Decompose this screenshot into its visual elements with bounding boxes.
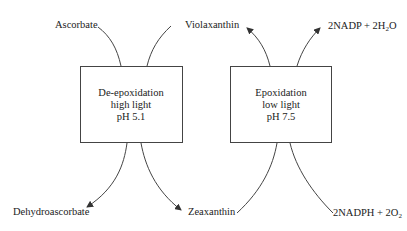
violaxanthin-input-line bbox=[147, 26, 171, 66]
nadph-oxygen-input-line bbox=[290, 143, 333, 213]
label-nadph-oxygen: 2NADPH + 2O2 bbox=[333, 207, 402, 220]
label-dehydroascorbate: Dehydroascorbate bbox=[13, 206, 90, 217]
label-zeaxanthin: Zeaxanthin bbox=[188, 206, 236, 217]
dehydroascorbate-arrow bbox=[87, 143, 127, 207]
nadp-water-arrow bbox=[297, 28, 320, 66]
xanthophyll-cycle-diagram: De-epoxidation high light pH 5.1 Epoxida… bbox=[0, 0, 407, 231]
label-nadp-water: 2NADP + 2H2O bbox=[328, 20, 397, 33]
zeaxanthin-input-line bbox=[237, 143, 277, 213]
box1-line1: De-epoxidation bbox=[98, 87, 164, 98]
box1-line2: high light bbox=[111, 99, 152, 110]
ascorbate-input-line bbox=[98, 27, 121, 66]
label-violaxanthin: Violaxanthin bbox=[185, 19, 240, 30]
zeaxanthin-arrow bbox=[141, 143, 181, 210]
label-ascorbate: Ascorbate bbox=[55, 19, 98, 30]
box2-line3: pH 7.5 bbox=[267, 111, 296, 122]
box2-line1: Epoxidation bbox=[255, 87, 307, 98]
box1-line3: pH 5.1 bbox=[117, 111, 146, 122]
box2-line2: low light bbox=[262, 99, 300, 110]
violaxanthin-arrow bbox=[247, 28, 270, 66]
